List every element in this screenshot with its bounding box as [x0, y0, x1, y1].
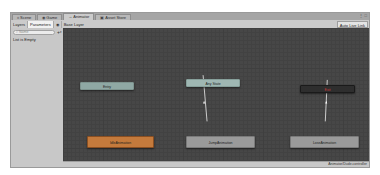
- controller-path: Animator/Dude.controller: [328, 162, 367, 167]
- node-lose-label: LoseAnimation: [313, 141, 336, 145]
- window-menu-icon[interactable]: ⋮ □: [359, 13, 367, 19]
- node-entry[interactable]: Entry: [80, 82, 134, 90]
- tab-animator[interactable]: → Animator: [63, 13, 94, 20]
- search-placeholder: Name: [19, 30, 28, 34]
- node-idle-animation[interactable]: IdleAnimation: [87, 136, 154, 148]
- search-icon: ⌕: [16, 30, 18, 34]
- node-jump-label: JumpAnimation: [208, 141, 232, 145]
- node-exit-label: Exit: [325, 88, 331, 92]
- node-any-state[interactable]: Any State: [186, 79, 240, 87]
- node-entry-label: Entry: [103, 85, 111, 89]
- tab-layers[interactable]: Layers: [11, 21, 28, 28]
- breadcrumb-base-layer[interactable]: Base Layer: [62, 21, 84, 28]
- node-any-state-label: Any State: [205, 82, 220, 86]
- node-exit[interactable]: Exit: [300, 85, 355, 93]
- parameters-panel: ⌕ Name + ▾ List is Empty: [11, 28, 64, 167]
- node-idle-label: IdleAnimation: [110, 141, 131, 145]
- chevron-down-icon[interactable]: ▾: [60, 30, 62, 34]
- search-input[interactable]: ⌕ Name: [13, 30, 55, 35]
- state-machine-graph[interactable]: Entry Any State Exit IdleAnimation JumpA…: [63, 28, 369, 161]
- node-jump-animation[interactable]: JumpAnimation: [186, 136, 255, 148]
- status-bar: Animator/Dude.controller: [63, 161, 369, 167]
- empty-list-text: List is Empty: [13, 37, 36, 42]
- auto-live-link-button[interactable]: Auto Live Link: [337, 21, 368, 28]
- search-row: ⌕ Name + ▾: [13, 29, 62, 35]
- node-lose-animation[interactable]: LoseAnimation: [290, 136, 359, 148]
- transition-arrow-icon: [203, 101, 205, 104]
- tab-parameters[interactable]: Parameters: [28, 21, 54, 28]
- eye-icon[interactable]: ◉: [54, 21, 62, 28]
- transition-arrow-icon: [325, 101, 327, 104]
- animator-window: ⌗ Scene ◉ Game → Animator ▣ Asset Store …: [10, 12, 370, 168]
